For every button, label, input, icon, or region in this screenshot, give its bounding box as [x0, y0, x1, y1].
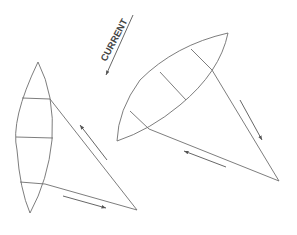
current-indicator: CURRENT [98, 15, 133, 75]
right-sail-hull [117, 33, 228, 141]
current-label: CURRENT [98, 17, 130, 63]
left-sail-hull [16, 62, 53, 213]
right-rope-triangle [149, 70, 279, 181]
diagram-canvas: CURRENT [0, 0, 297, 235]
left-rope-triangle [45, 99, 137, 210]
arrow-right-icon [63, 196, 106, 208]
arrow-left-icon [184, 151, 226, 167]
